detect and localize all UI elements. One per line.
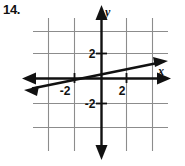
x-axis-arrow-left (22, 73, 36, 85)
y-axis-arrow-down (96, 145, 108, 160)
tick-label-y-plus2: 2 (89, 47, 96, 61)
figure-container: 14. (0, 0, 185, 166)
x-axis-label: x (157, 64, 164, 78)
plotted-line (24, 57, 168, 96)
y-axis (96, 5, 108, 160)
y-axis-label: y (103, 5, 111, 19)
tick-label-y-minus2: -2 (85, 97, 96, 111)
plotted-line-arrow-left (24, 86, 39, 96)
coordinate-plane-graph: y x -2 2 2 -2 (0, 0, 185, 166)
plotted-line-segment (32, 63, 160, 89)
tick-label-x-plus2: 2 (119, 84, 126, 98)
tick-label-x-minus2: -2 (60, 84, 71, 98)
